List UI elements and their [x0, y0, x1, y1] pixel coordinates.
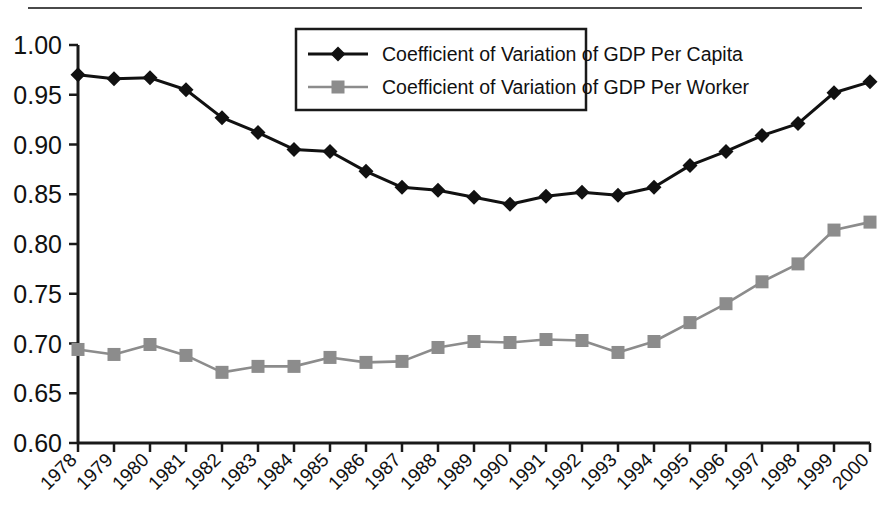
data-point-marker	[180, 349, 193, 362]
data-point-marker	[251, 125, 266, 140]
y-axis-tick-label: 0.60	[13, 429, 62, 457]
data-point-marker	[468, 335, 481, 348]
data-point-marker	[324, 351, 337, 364]
data-point-marker	[107, 71, 122, 86]
x-axis-tick-label: 1980	[108, 449, 153, 494]
data-point-marker	[863, 74, 878, 89]
data-point-marker	[252, 360, 265, 373]
data-point-marker	[755, 128, 770, 143]
y-axis-tick-label: 0.85	[13, 180, 62, 208]
data-point-marker	[647, 180, 662, 195]
data-point-marker	[756, 275, 769, 288]
data-point-marker	[431, 183, 446, 198]
y-axis-tick-label: 1.00	[13, 31, 62, 59]
x-axis-tick-label: 1993	[576, 449, 621, 494]
x-axis-tick-label: 1983	[216, 449, 261, 494]
line-chart-plot: 1.000.950.900.850.800.750.700.650.601978…	[0, 0, 890, 525]
data-point-marker	[575, 185, 590, 200]
data-point-marker	[720, 297, 733, 310]
data-point-marker	[108, 348, 121, 361]
x-axis-tick-label: 1979	[72, 449, 117, 494]
x-axis-tick-label: 1982	[180, 449, 225, 494]
data-point-marker	[683, 158, 698, 173]
data-point-marker	[611, 188, 626, 203]
y-axis-tick-label: 0.75	[13, 280, 62, 308]
data-point-marker	[143, 70, 158, 85]
data-point-marker	[71, 67, 86, 82]
data-point-marker	[648, 335, 661, 348]
data-point-marker	[864, 216, 877, 229]
x-axis-tick-label: 1997	[720, 449, 765, 494]
data-point-marker	[504, 336, 517, 349]
data-point-marker	[792, 257, 805, 270]
x-axis-tick-label: 1985	[288, 449, 333, 494]
data-point-marker	[332, 81, 345, 94]
y-axis-tick-label: 0.80	[13, 230, 62, 258]
data-point-marker	[287, 142, 302, 157]
data-point-marker	[395, 180, 410, 195]
data-point-marker	[684, 316, 697, 329]
x-axis-tick-label: 1991	[504, 449, 549, 494]
data-point-marker	[539, 189, 554, 204]
x-axis-tick-label: 1981	[144, 449, 189, 494]
data-point-marker	[396, 355, 409, 368]
data-point-marker	[467, 190, 482, 205]
x-axis-tick-label: 1990	[468, 449, 513, 494]
x-axis-tick-label: 1986	[324, 449, 369, 494]
data-point-marker	[144, 338, 157, 351]
x-axis-tick-label: 1987	[360, 449, 405, 494]
data-point-marker	[323, 144, 338, 159]
y-axis-tick-label: 0.95	[13, 81, 62, 109]
chart-series	[72, 216, 877, 379]
series-line	[78, 222, 870, 372]
x-axis-tick-label: 1989	[432, 449, 477, 494]
x-axis-tick-label: 2000	[828, 449, 873, 494]
data-point-marker	[360, 356, 373, 369]
x-axis-tick-label: 1984	[252, 449, 297, 494]
y-axis-tick-label: 0.70	[13, 330, 62, 358]
y-axis-tick-label: 0.90	[13, 131, 62, 159]
x-axis-tick-label: 1992	[540, 449, 585, 494]
data-point-marker	[216, 366, 229, 379]
data-point-marker	[828, 224, 841, 237]
y-axis-tick-label: 0.65	[13, 379, 62, 407]
data-point-marker	[503, 197, 518, 212]
x-axis-tick-label: 1994	[612, 449, 657, 494]
data-point-marker	[576, 334, 589, 347]
data-point-marker	[719, 144, 734, 159]
x-axis-tick-label: 1999	[792, 449, 837, 494]
x-axis-tick-label: 1995	[648, 449, 693, 494]
chart-figure: 1.000.950.900.850.800.750.700.650.601978…	[0, 0, 890, 525]
x-axis-tick-label: 1988	[396, 449, 441, 494]
data-point-marker	[288, 360, 301, 373]
x-axis-tick-label: 1996	[684, 449, 729, 494]
chart-legend: Coefficient of Variation of GDP Per Capi…	[296, 29, 750, 110]
data-point-marker	[72, 343, 85, 356]
data-point-marker	[540, 333, 553, 346]
data-point-marker	[432, 341, 445, 354]
legend-label: Coefficient of Variation of GDP Per Capi…	[382, 43, 743, 65]
x-axis-tick-label: 1998	[756, 449, 801, 494]
legend-label: Coefficient of Variation of GDP Per Work…	[382, 76, 750, 98]
data-point-marker	[359, 164, 374, 179]
data-point-marker	[612, 346, 625, 359]
